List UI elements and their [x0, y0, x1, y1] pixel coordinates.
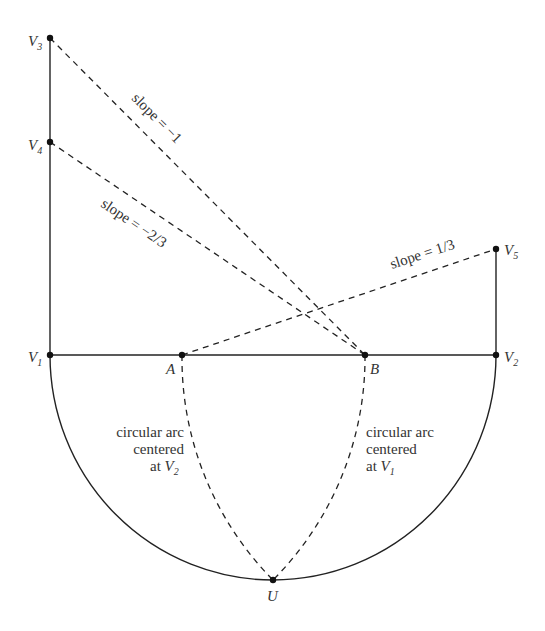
point-v4: [47, 139, 53, 145]
dashed-line-a-v5: [182, 249, 496, 355]
dashed-arc-b-u: [273, 355, 365, 580]
svg-text:circular arc: circular arc: [366, 424, 434, 440]
label-b: B: [370, 361, 379, 377]
arc-label-right: circular arc centered at V1: [366, 424, 434, 477]
svg-text:at V2: at V2: [150, 458, 179, 477]
label-v5: V5: [504, 242, 518, 261]
svg-text:centered: centered: [366, 441, 417, 457]
dashed-line-v4-b: [50, 142, 365, 355]
label-v2: V2: [504, 349, 518, 368]
point-v1: [47, 352, 53, 358]
svg-text:circular arc: circular arc: [116, 424, 184, 440]
svg-text:at V1: at V1: [366, 458, 395, 477]
point-v2: [493, 352, 499, 358]
dashed-arc-a-u: [182, 355, 273, 580]
geometry-diagram: V3 V4 V1 V2 V5 A B U slope = −1 slope = …: [0, 0, 545, 631]
point-b: [362, 352, 368, 358]
point-v5: [493, 246, 499, 252]
label-v3: V3: [28, 33, 42, 52]
arc-label-left: circular arc centered at V2: [116, 424, 184, 477]
label-v4: V4: [28, 137, 42, 156]
point-v3: [47, 35, 53, 41]
label-v1: V1: [28, 349, 42, 368]
slope-label-v4-b: slope = −2/3: [98, 195, 169, 250]
dashed-line-v3-b: [50, 38, 365, 355]
point-u: [270, 577, 276, 583]
svg-text:centered: centered: [133, 441, 184, 457]
point-a: [179, 352, 185, 358]
slope-label-v3-b: slope = −1: [129, 90, 185, 146]
label-u: U: [267, 588, 279, 604]
semicircle-arc: [50, 355, 496, 580]
label-a: A: [165, 361, 176, 377]
